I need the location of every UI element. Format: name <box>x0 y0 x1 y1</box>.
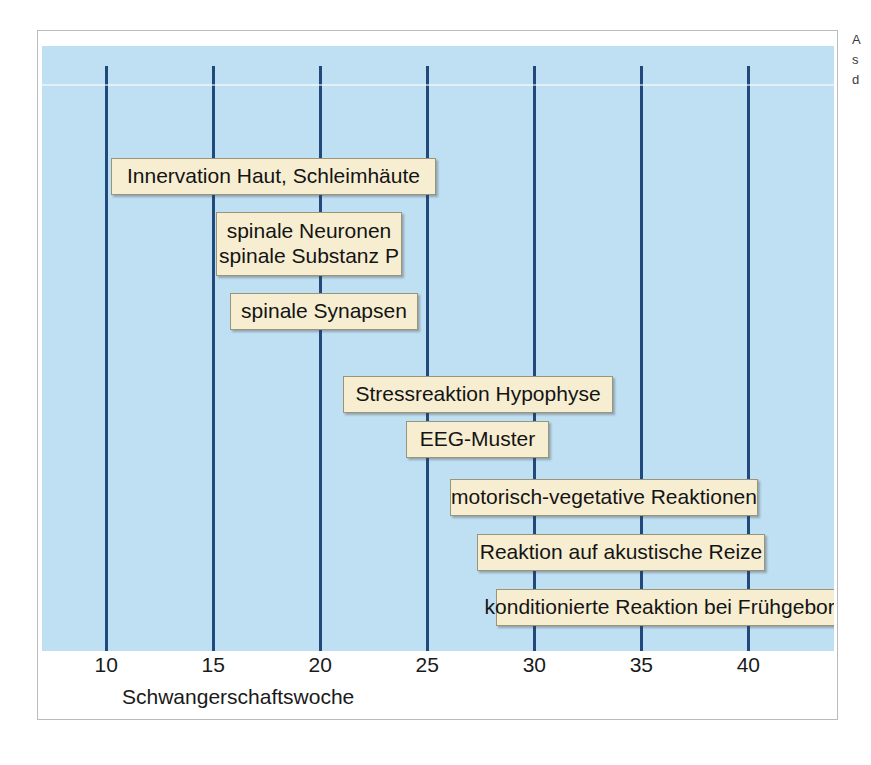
milestone-box-stressreaktion-hypophyse: Stressreaktion Hypophyse <box>343 376 613 413</box>
milestone-label-line: konditionierte Reaktion bei Frühgeborene… <box>485 595 834 620</box>
milestone-box-eeg-muster: EEG-Muster <box>406 421 549 458</box>
milestone-label-line: EEG-Muster <box>420 427 536 452</box>
gridline-week-15 <box>212 66 215 651</box>
milestone-label-line: spinale Neuronen <box>227 219 392 244</box>
x-tick-label-25: 25 <box>416 653 439 677</box>
milestone-label-line: spinale Synapsen <box>241 299 407 324</box>
milestone-box-spinale-synapsen: spinale Synapsen <box>230 293 418 330</box>
gridline-week-25 <box>426 66 429 651</box>
margin-bleed-line: d <box>852 70 871 90</box>
milestone-box-konditionierte-reaktion-bei-fruehgeborenen: konditionierte Reaktion bei Frühgeborene… <box>496 589 834 626</box>
milestone-label-line: Reaktion auf akustische Reize <box>480 540 763 565</box>
figure-frame: Innervation Haut, Schleimhäutespinale Ne… <box>37 30 838 720</box>
margin-bleed-line: A <box>852 30 871 50</box>
milestone-box-motorisch-vegetative-reaktionen: motorisch-vegetative Reaktionen <box>450 479 758 516</box>
x-tick-label-40: 40 <box>737 653 760 677</box>
x-axis-title: Schwangerschaftswoche <box>122 685 354 709</box>
milestone-label-line: Stressreaktion Hypophyse <box>355 382 600 407</box>
margin-bleed-line: s <box>852 50 871 70</box>
gridline-week-10 <box>105 66 108 651</box>
x-tick-label-15: 15 <box>202 653 225 677</box>
x-axis-tick-labels: 10152025303540 <box>42 653 834 687</box>
milestone-box-innervation-haut-schleimhaeute: Innervation Haut, Schleimhäute <box>111 158 436 195</box>
x-tick-label-20: 20 <box>309 653 332 677</box>
x-tick-label-35: 35 <box>630 653 653 677</box>
plot-area: Innervation Haut, Schleimhäutespinale Ne… <box>42 46 834 651</box>
gridline-week-20 <box>319 66 322 651</box>
page-margin-bleed-text: Asd <box>852 30 871 90</box>
milestone-box-spinale-neuronen-substanz-p: spinale Neuronenspinale Substanz P <box>216 212 402 276</box>
milestone-label-line: spinale Substanz P <box>219 244 399 269</box>
milestone-box-reaktion-auf-akustische-reize: Reaktion auf akustische Reize <box>477 534 765 571</box>
milestone-label-line: motorisch-vegetative Reaktionen <box>451 485 757 510</box>
x-tick-label-10: 10 <box>95 653 118 677</box>
milestone-label-line: Innervation Haut, Schleimhäute <box>127 164 420 189</box>
x-tick-label-30: 30 <box>523 653 546 677</box>
